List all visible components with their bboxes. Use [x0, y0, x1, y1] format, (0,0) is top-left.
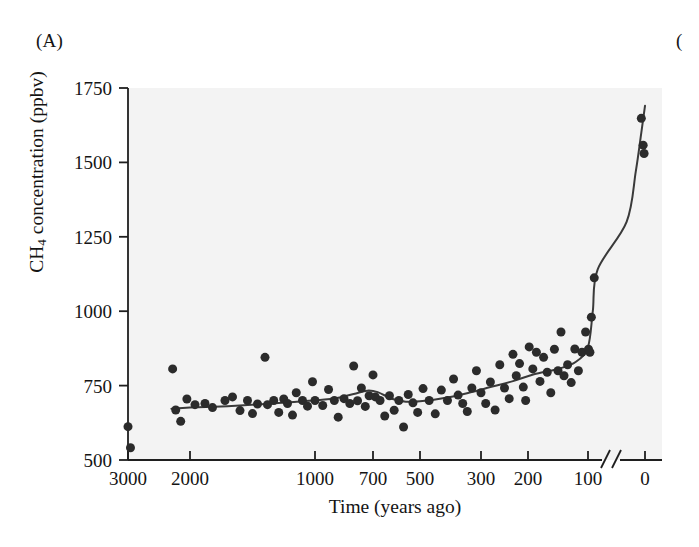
data-point: [303, 402, 312, 411]
data-point: [274, 408, 283, 417]
data-point: [477, 388, 486, 397]
data-point: [639, 141, 648, 150]
data-point: [311, 396, 320, 405]
data-point: [463, 407, 472, 416]
figure-panel-a: (A) ( CH4 concentration (ppbv) Time (yea…: [0, 0, 699, 547]
data-point: [640, 149, 649, 158]
data-point: [472, 366, 481, 375]
data-point: [369, 370, 378, 379]
data-point: [437, 386, 446, 395]
data-point: [536, 377, 545, 386]
data-point: [404, 390, 413, 399]
y-tick-label-1250: 1250: [52, 228, 112, 247]
data-point: [560, 371, 569, 380]
y-tick-label-500: 500: [52, 451, 112, 470]
data-point: [574, 366, 583, 375]
data-point: [443, 396, 452, 405]
y-axis-title: CH4 concentration (ppbv): [26, 22, 50, 322]
data-point: [543, 368, 552, 377]
data-point: [528, 364, 537, 373]
data-point: [419, 384, 428, 393]
data-point: [168, 364, 177, 373]
data-point: [171, 406, 180, 415]
y-axis-title-suffix: concentration (ppbv): [26, 71, 47, 239]
data-point: [269, 396, 278, 405]
data-point: [637, 114, 646, 123]
data-point: [236, 406, 245, 415]
data-point: [380, 411, 389, 420]
data-point: [519, 383, 528, 392]
data-point: [495, 360, 504, 369]
data-point: [349, 361, 358, 370]
data-point: [176, 417, 185, 426]
x-tick-label-3000: 3000: [93, 469, 163, 488]
data-point: [481, 399, 490, 408]
data-point: [353, 396, 362, 405]
data-point: [587, 313, 596, 322]
data-point: [525, 342, 534, 351]
panel-label-b-cropped: (: [676, 30, 682, 52]
data-point: [454, 391, 463, 400]
data-point: [567, 378, 576, 387]
data-point: [546, 388, 555, 397]
data-point: [124, 422, 133, 431]
data-point: [557, 328, 566, 337]
data-point: [191, 400, 200, 409]
data-point: [449, 375, 458, 384]
data-point: [425, 396, 434, 405]
data-point: [345, 399, 354, 408]
data-point: [486, 378, 495, 387]
data-point: [253, 400, 262, 409]
data-point: [590, 273, 599, 282]
data-point: [512, 371, 521, 380]
data-point: [318, 401, 327, 410]
data-point: [292, 388, 301, 397]
data-point: [508, 350, 517, 359]
x-tick-label-0: 0: [610, 469, 680, 488]
y-tick-label-750: 750: [52, 377, 112, 396]
data-point: [394, 396, 403, 405]
data-point: [208, 403, 217, 412]
data-point: [539, 353, 548, 362]
data-point: [228, 392, 237, 401]
x-axis-title: Time (years ago): [128, 496, 662, 518]
data-point: [521, 396, 530, 405]
y-axis-title-prefix: CH: [26, 246, 47, 273]
data-point: [385, 391, 394, 400]
data-point: [248, 409, 257, 418]
y-tick-label-1500: 1500: [52, 153, 112, 172]
data-point: [399, 422, 408, 431]
data-point: [308, 377, 317, 386]
data-point: [324, 385, 333, 394]
data-point: [334, 413, 343, 422]
data-point: [550, 345, 559, 354]
data-point: [376, 396, 385, 405]
y-tick-label-1750: 1750: [52, 79, 112, 98]
data-point: [408, 398, 417, 407]
data-point: [126, 443, 135, 452]
data-point: [581, 328, 590, 337]
data-point: [500, 383, 509, 392]
data-point: [585, 348, 594, 357]
data-point: [505, 394, 514, 403]
y-tick-label-1000: 1000: [52, 302, 112, 321]
data-point: [413, 408, 422, 417]
data-point: [458, 399, 467, 408]
data-point: [357, 383, 366, 392]
data-point: [467, 383, 476, 392]
data-point: [563, 360, 572, 369]
data-point: [330, 396, 339, 405]
data-point: [361, 402, 370, 411]
data-point: [283, 399, 292, 408]
data-point: [288, 411, 297, 420]
data-point: [431, 409, 440, 418]
data-point: [243, 396, 252, 405]
data-point: [390, 406, 399, 415]
x-tick-label-2000: 2000: [155, 469, 225, 488]
data-point: [491, 406, 500, 415]
data-point: [182, 394, 191, 403]
data-point: [261, 353, 270, 362]
x-tick-label-500: 500: [385, 469, 455, 488]
data-point: [515, 359, 524, 368]
y-axis-title-subscript: 4: [34, 239, 49, 246]
